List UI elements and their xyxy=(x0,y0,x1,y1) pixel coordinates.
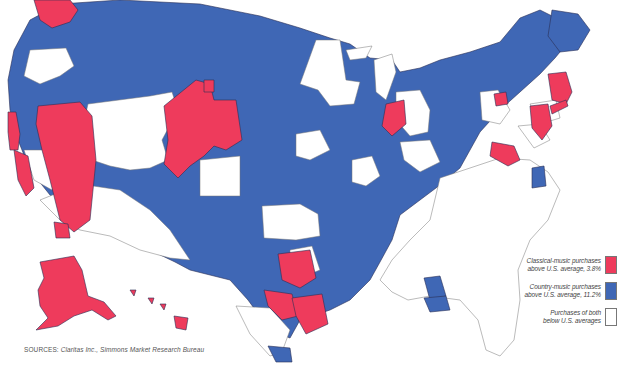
legend-label-country: Country-music purchases above U.S. avera… xyxy=(524,283,601,299)
legend-label-neither: Purchases of both below U.S. averages xyxy=(543,309,601,325)
source-text: Claritas Inc., Simmons Market Research B… xyxy=(61,346,205,353)
map-legend: Classical-music purchases above U.S. ave… xyxy=(497,256,617,334)
source-prefix: SOURCES: xyxy=(24,346,59,353)
legend-swatch-classical xyxy=(605,256,617,274)
legend-swatch-country xyxy=(605,282,617,300)
legend-item-classical: Classical-music purchases above U.S. ave… xyxy=(497,256,617,274)
legend-label-classical: Classical-music purchases above U.S. ave… xyxy=(527,257,601,273)
legend-item-country: Country-music purchases above U.S. avera… xyxy=(497,282,617,300)
legend-swatch-neither xyxy=(605,308,617,326)
legend-item-neither: Purchases of both below U.S. averages xyxy=(497,308,617,326)
source-credit: SOURCES: Claritas Inc., Simmons Market R… xyxy=(24,346,204,353)
